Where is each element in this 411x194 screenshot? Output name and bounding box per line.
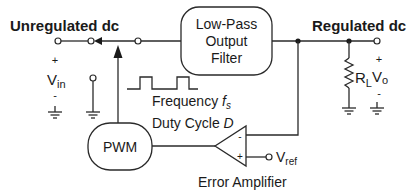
vo-label: Vo <box>372 68 388 86</box>
output-terminal-icon <box>374 38 380 44</box>
switch-pole-terminal-icon <box>135 38 141 44</box>
output-ground-icon <box>370 102 384 114</box>
input-ground-icon <box>48 106 62 118</box>
pwm-label: PWM <box>103 139 137 155</box>
switch-arrow-icon <box>94 37 102 45</box>
regulated-dc-label: Regulated dc <box>312 17 406 34</box>
error-amplifier-label: Error Amplifier <box>198 174 287 190</box>
vin-plus-label: + <box>52 54 58 66</box>
rl-label: RL <box>355 69 372 89</box>
load-resistor: RL <box>342 41 372 114</box>
duty-cycle-label: Duty Cycle D <box>152 115 234 131</box>
filter-label-line1: Low-Pass <box>196 16 257 32</box>
opamp-plus-label: + <box>237 151 243 162</box>
converter-block-diagram: Unregulated dc Regulated dc Low-Pass Out… <box>0 0 411 194</box>
input-terminal-icon <box>55 38 61 44</box>
vo-minus-label: - <box>377 87 381 99</box>
input-switch <box>55 37 181 45</box>
vin-label: Vin <box>47 71 66 90</box>
pwm-block: PWM <box>88 123 152 170</box>
vin-minus-label: - <box>53 89 57 101</box>
control-arrow-icon <box>114 45 123 58</box>
ground-icon <box>342 108 356 114</box>
unregulated-dc-label: Unregulated dc <box>10 17 119 34</box>
vref-terminal-icon <box>266 154 272 160</box>
return-terminal <box>86 75 100 118</box>
square-wave-icon <box>127 77 198 89</box>
vo-plus-label: + <box>376 53 382 65</box>
opamp-minus-label: - <box>238 131 241 142</box>
resistor-icon <box>345 58 353 88</box>
switch-terminal-icon <box>88 38 94 44</box>
vref-label: Vref <box>276 149 297 167</box>
frequency-label: Frequency fs <box>152 93 231 111</box>
low-pass-filter-block: Low-Pass Output Filter <box>181 7 272 75</box>
filter-label-line3: Filter <box>211 50 242 66</box>
return-terminal-icon <box>90 75 96 81</box>
filter-label-line2: Output <box>205 33 247 49</box>
error-amplifier: - + <box>215 126 246 166</box>
